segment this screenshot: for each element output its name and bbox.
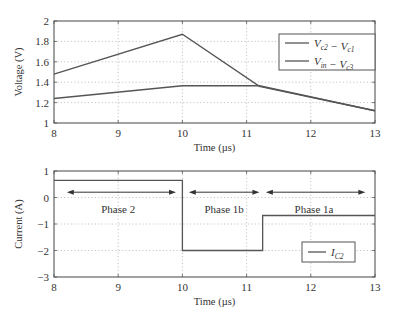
x-axis-label: Time (µs) (194, 296, 236, 308)
x-tick-label: 8 (51, 127, 57, 139)
x-tick-label: 11 (241, 281, 252, 293)
x-tick-label: 10 (177, 127, 189, 139)
legend-subscript: c3 (346, 63, 353, 72)
legend: Vc2 − Vc1Vin − Vc3 (279, 34, 375, 72)
y-tick-label: −1 (37, 218, 49, 230)
legend-symbol: − V (327, 58, 348, 70)
figure: 891011121311.21.41.61.82Time (µs)Voltage… (0, 0, 398, 319)
x-tick-label: 13 (370, 281, 382, 293)
series-line-1 (54, 86, 375, 111)
arrowhead-right-icon (252, 190, 259, 195)
legend-symbol: − V (328, 40, 349, 52)
voltage-chart: 891011121311.21.41.61.82Time (µs)Voltage… (13, 15, 381, 154)
x-tick-label: 12 (305, 127, 316, 139)
y-tick-label: −2 (37, 245, 49, 257)
legend-subscript: C2 (335, 252, 344, 261)
phase-label: Phase 2 (101, 203, 135, 215)
y-tick-label: 1.2 (35, 97, 49, 109)
x-tick-label: 10 (177, 281, 189, 293)
phase-label: Phase 1a (295, 203, 334, 215)
arrowhead-left-icon (67, 190, 74, 195)
legend: IC2 (302, 242, 355, 262)
x-tick-label: 13 (370, 127, 382, 139)
y-tick-label: 1.8 (35, 35, 49, 47)
y-tick-label: 0 (44, 192, 50, 204)
x-tick-label: 12 (305, 281, 316, 293)
x-tick-label: 11 (241, 127, 252, 139)
y-axis-label: Voltage (V) (13, 47, 25, 97)
x-tick-label: 9 (115, 281, 121, 293)
x-axis-label: Time (µs) (194, 142, 236, 154)
x-tick-label: 8 (51, 281, 57, 293)
arrowhead-right-icon (169, 190, 176, 195)
current-chart: 8910111213−3−2−101Time (µs)Current (A)Ph… (13, 165, 381, 308)
phase-label: Phase 1b (204, 203, 244, 215)
arrowhead-right-icon (358, 190, 365, 195)
y-tick-label: 1.4 (35, 76, 49, 88)
arrowhead-left-icon (189, 190, 196, 195)
y-tick-label: 1.6 (35, 56, 49, 68)
y-tick-label: 2 (44, 15, 50, 27)
y-tick-label: 1 (44, 165, 50, 177)
y-axis-label: Current (A) (13, 199, 25, 249)
y-tick-label: 1 (44, 117, 50, 129)
arrowhead-left-icon (266, 190, 273, 195)
legend-subscript: c1 (347, 45, 354, 54)
x-tick-label: 9 (115, 127, 121, 139)
y-tick-label: −3 (37, 271, 49, 283)
